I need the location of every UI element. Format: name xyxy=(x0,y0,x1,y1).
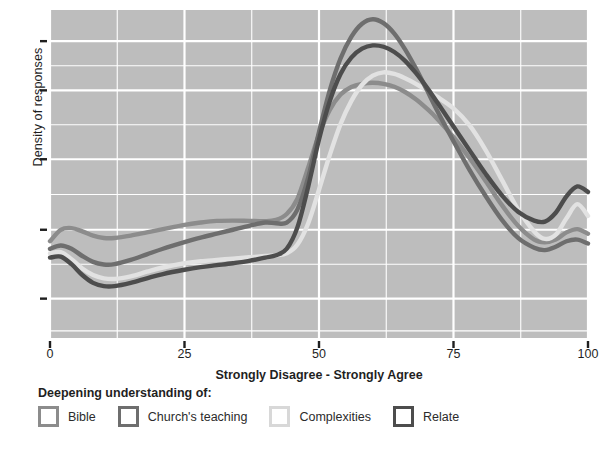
legend-item-label: Church's teaching xyxy=(148,410,248,424)
x-axis-title: Strongly Disagree - Strongly Agree xyxy=(50,368,588,382)
x-tick-label: 25 xyxy=(178,347,192,361)
legend: Deepening understanding of: BibleChurch'… xyxy=(38,386,598,427)
legend-items: BibleChurch's teachingComplexitiesRelate xyxy=(38,406,598,427)
legend-swatch-icon xyxy=(38,406,59,427)
legend-item-church-s-teaching[interactable]: Church's teaching xyxy=(118,406,248,427)
x-tick-label: 0 xyxy=(47,347,54,361)
x-tick-label: 100 xyxy=(578,347,599,361)
legend-item-label: Complexities xyxy=(299,410,371,424)
legend-swatch-icon xyxy=(118,406,139,427)
y-axis-title: Density of responses xyxy=(31,0,45,237)
density-plot-figure: Density of responses Strongly Disagree -… xyxy=(0,0,609,460)
legend-item-bible[interactable]: Bible xyxy=(38,406,96,427)
legend-title: Deepening understanding of: xyxy=(38,386,598,400)
legend-item-label: Bible xyxy=(68,410,96,424)
legend-item-relate[interactable]: Relate xyxy=(393,406,459,427)
x-tick-label: 75 xyxy=(447,347,461,361)
x-tick-label: 50 xyxy=(312,347,326,361)
legend-item-label: Relate xyxy=(423,410,459,424)
legend-swatch-icon xyxy=(393,406,414,427)
legend-item-complexities[interactable]: Complexities xyxy=(269,406,371,427)
legend-swatch-icon xyxy=(269,406,290,427)
